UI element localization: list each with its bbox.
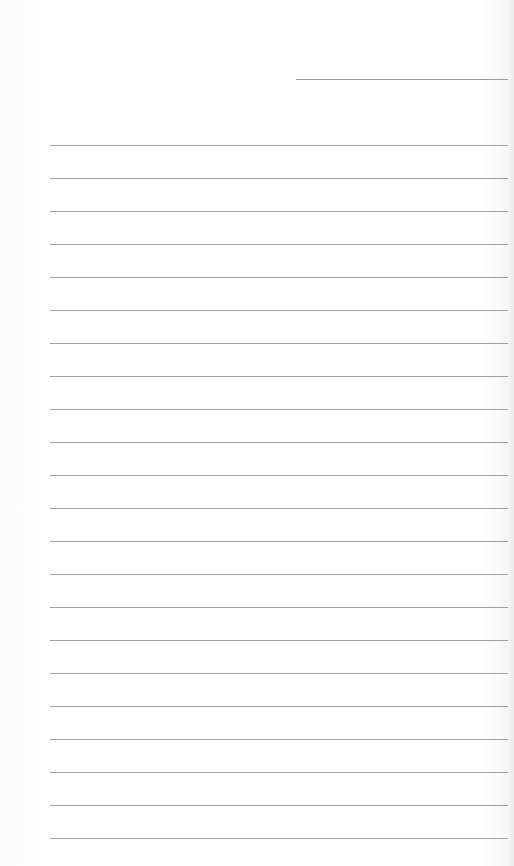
ruled-line[interactable] bbox=[50, 574, 508, 607]
ruled-line[interactable] bbox=[50, 541, 508, 574]
ruled-line[interactable] bbox=[50, 805, 508, 838]
ruled-line[interactable] bbox=[50, 838, 508, 866]
lined-paper-page bbox=[0, 0, 514, 866]
ruled-line[interactable] bbox=[50, 772, 508, 805]
ruled-line[interactable] bbox=[50, 640, 508, 673]
header-field-line[interactable] bbox=[296, 79, 508, 80]
ruled-lines bbox=[50, 145, 508, 866]
ruled-line[interactable] bbox=[50, 409, 508, 442]
ruled-line[interactable] bbox=[50, 244, 508, 277]
ruled-line[interactable] bbox=[50, 673, 508, 706]
ruled-line[interactable] bbox=[50, 442, 508, 475]
ruled-line[interactable] bbox=[50, 376, 508, 409]
ruled-line[interactable] bbox=[50, 739, 508, 772]
ruled-line[interactable] bbox=[50, 145, 508, 178]
page-edge-shadow bbox=[508, 0, 514, 866]
ruled-line[interactable] bbox=[50, 277, 508, 310]
ruled-line[interactable] bbox=[50, 178, 508, 211]
ruled-line[interactable] bbox=[50, 508, 508, 541]
ruled-line[interactable] bbox=[50, 607, 508, 640]
ruled-line[interactable] bbox=[50, 475, 508, 508]
ruled-line[interactable] bbox=[50, 310, 508, 343]
ruled-line[interactable] bbox=[50, 343, 508, 376]
ruled-line[interactable] bbox=[50, 706, 508, 739]
ruled-line[interactable] bbox=[50, 211, 508, 244]
